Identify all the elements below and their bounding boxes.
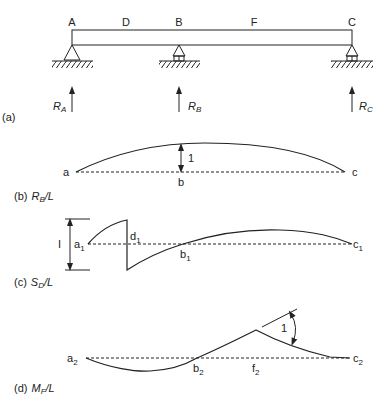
roller-support-b-icon	[159, 45, 200, 68]
point-label-a: A	[68, 16, 76, 28]
point-label-b: B	[175, 16, 182, 28]
unit-ordinate-label: 1	[188, 152, 194, 164]
point-a2-label: a2	[67, 352, 78, 367]
point-b-label: b	[178, 176, 184, 188]
panel-c-caption: (c)SD/L	[14, 276, 53, 290]
point-a-label: a	[63, 166, 70, 178]
influence-curve-sd	[88, 220, 352, 270]
unit-rotation-arc-icon	[291, 314, 296, 342]
jump-label: I	[58, 238, 61, 250]
point-c2-label: c2	[353, 352, 364, 367]
influence-line-diagram: A D B F C RA	[0, 0, 392, 409]
panel-b-influence-line: 1 a b c (b)RB/L	[14, 143, 358, 204]
roller-support-c-icon	[331, 45, 373, 68]
unit-rotation-label: 1	[281, 322, 287, 334]
point-b2-label: b2	[193, 362, 204, 377]
point-d1-label: d1	[130, 230, 141, 245]
reaction-label-c: RC	[359, 100, 373, 114]
point-label-d: D	[122, 16, 130, 28]
tangent-line	[262, 309, 297, 327]
point-c-label: c	[352, 166, 358, 178]
pin-support-a-icon	[52, 45, 93, 68]
reaction-label-a: RA	[53, 100, 66, 114]
panel-d-caption: (d)MF/L	[14, 382, 55, 396]
panel-a-beam: A D B F C RA	[2, 16, 373, 123]
point-label-f: F	[251, 16, 258, 28]
point-a1-label: a1	[74, 238, 85, 253]
point-c1-label: c1	[353, 238, 364, 253]
influence-curve-rb	[76, 143, 345, 172]
point-f2-label: f2	[252, 362, 260, 377]
reaction-label-b: RB	[188, 100, 202, 114]
influence-curve-mf	[86, 330, 350, 371]
point-b1-label: b1	[180, 248, 191, 263]
panel-a-caption: (a)	[2, 111, 15, 123]
panel-b-caption: (b)RB/L	[14, 190, 54, 204]
beam	[72, 30, 352, 45]
panel-d-influence-line: 1 a2 b2 f2 c2 (d)MF/L	[14, 309, 364, 396]
point-label-c: C	[348, 16, 356, 28]
panel-c-influence-line: I a1 d1 b1 c1 (c)SD/L	[14, 219, 364, 290]
